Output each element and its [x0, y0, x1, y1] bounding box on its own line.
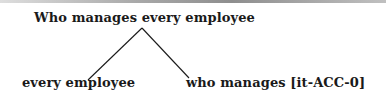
- edge-root-to-left-child: [88, 28, 142, 80]
- right-child-node-label: who manages [it-ACC-0]: [186, 76, 365, 89]
- edge-root-to-right-child: [142, 28, 189, 78]
- left-child-node-label: every employee: [22, 76, 135, 89]
- root-node-label: Who manages every employee: [34, 11, 255, 24]
